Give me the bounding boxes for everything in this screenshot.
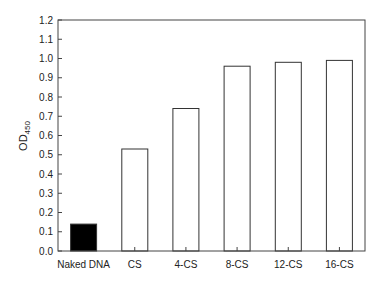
bar-cs <box>122 149 148 251</box>
y-tick-label: 0.8 <box>39 92 53 103</box>
bar-12-cs <box>275 62 301 251</box>
y-axis-label-main: OD <box>17 134 29 151</box>
y-tick-label: 0.2 <box>39 207 53 218</box>
y-axis-label: OD450 <box>17 121 32 151</box>
y-axis-label-subscript: 450 <box>23 121 32 135</box>
y-tick-label: 0.7 <box>39 111 53 122</box>
y-tick-label: 1.0 <box>39 53 53 64</box>
bars-group <box>71 60 353 251</box>
bar-4-cs <box>173 109 199 252</box>
x-tick-label: 8-CS <box>226 259 249 270</box>
y-tick-label: 0.4 <box>39 169 53 180</box>
x-tick-label: 12-CS <box>274 259 303 270</box>
x-axis: Naked DNACS4-CS8-CS12-CS16-CS <box>57 247 354 270</box>
x-tick-label: 16-CS <box>325 259 354 270</box>
y-tick-label: 0.9 <box>39 72 53 83</box>
y-tick-label: 1.2 <box>39 15 53 26</box>
x-tick-label: Naked DNA <box>57 259 110 270</box>
y-tick-label: 1.1 <box>39 34 53 45</box>
plot-frame <box>58 20 365 251</box>
chart-canvas: 0.00.10.20.30.40.50.60.70.80.91.01.11.2 … <box>0 0 384 281</box>
bar-16-cs <box>326 60 352 251</box>
y-tick-label: 0.5 <box>39 149 53 160</box>
y-tick-label: 0.1 <box>39 226 53 237</box>
y-axis: 0.00.10.20.30.40.50.60.70.80.91.01.11.2 <box>39 15 62 257</box>
y-tick-label: 0.3 <box>39 188 53 199</box>
plot-border <box>58 20 365 251</box>
bar-8-cs <box>224 66 250 251</box>
y-tick-label: 0.6 <box>39 130 53 141</box>
bar-naked-dna <box>71 224 97 251</box>
y-tick-label: 0.0 <box>39 246 53 257</box>
bar-chart: 0.00.10.20.30.40.50.60.70.80.91.01.11.2 … <box>0 0 384 281</box>
x-tick-label: CS <box>128 259 142 270</box>
x-tick-label: 4-CS <box>175 259 198 270</box>
